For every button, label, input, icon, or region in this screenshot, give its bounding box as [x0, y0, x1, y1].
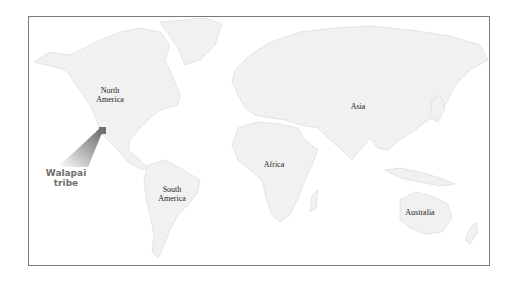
label-south-america: South America	[158, 185, 186, 203]
label-asia-text: Asia	[351, 102, 366, 111]
madagascar-shape	[310, 190, 318, 212]
label-africa-text: Africa	[264, 160, 284, 169]
label-africa: Africa	[264, 160, 284, 169]
greenland-shape	[160, 18, 222, 65]
world-map	[0, 0, 512, 285]
label-south-america-line2: America	[158, 194, 186, 203]
callout-wedge	[58, 129, 102, 167]
south-america-shape	[144, 160, 200, 258]
label-north-america: North America	[96, 86, 124, 104]
label-australia-text: Australia	[405, 208, 434, 217]
africa-shape	[232, 122, 318, 222]
label-south-america-line1: South	[158, 185, 186, 194]
label-australia: Australia	[405, 208, 434, 217]
label-north-america-line2: America	[96, 95, 124, 104]
callout-line1: Walapai	[46, 168, 86, 178]
callout-line2: tribe	[46, 178, 86, 188]
callout-walapai-tribe: Walapai tribe	[46, 168, 86, 188]
label-north-america-line1: North	[96, 86, 124, 95]
label-asia: Asia	[351, 102, 366, 111]
new-zealand-shape	[465, 222, 478, 244]
indonesia-shape	[385, 168, 455, 186]
location-marker	[99, 127, 106, 134]
